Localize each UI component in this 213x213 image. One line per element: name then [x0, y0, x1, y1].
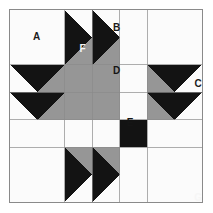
- piece-A-bottom-left: [10, 147, 65, 202]
- quilt-block-canvas: [10, 10, 202, 202]
- piece-A-bottom-right: [147, 147, 202, 202]
- piece-C-vertical-sashing: [120, 10, 147, 202]
- quilt-block-diagram: ABFDCEG: [9, 9, 203, 203]
- piece-G-center-square: [120, 120, 147, 147]
- piece-A-top-right: [147, 10, 202, 65]
- horizontal-sashing: [10, 120, 202, 147]
- piece-A-top-left: [10, 10, 65, 65]
